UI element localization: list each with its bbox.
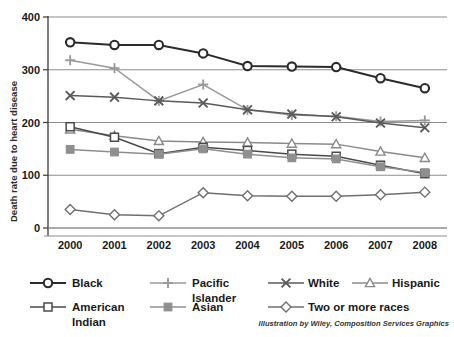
x-tick-label: 2004 [235, 239, 260, 251]
x-tick-label: 2001 [102, 239, 126, 251]
x-tick-label: 2000 [58, 239, 82, 251]
legend-item-white[interactable]: White [268, 277, 339, 289]
legend-label: Indian [72, 316, 106, 328]
series-black [66, 38, 429, 92]
x-tick-label: 2006 [324, 239, 348, 251]
legend-label: Asian [192, 301, 223, 313]
legend-item-hispanic[interactable]: Hispanic [352, 277, 441, 289]
x-tick-label: 2003 [191, 239, 215, 251]
series-two-or-more-races [65, 187, 430, 221]
x-tick-label: 2005 [280, 239, 304, 251]
credit-line: Illustration by Wiley, Composition Servi… [259, 319, 449, 328]
legend-label: Pacific [192, 277, 230, 289]
x-tick-label: 2008 [413, 239, 437, 251]
y-tick-label: 200 [22, 117, 40, 129]
legend-item-american-indian[interactable]: AmericanIndian [30, 301, 124, 328]
x-tick-label: 2007 [368, 239, 392, 251]
x-axis-ticks: 200020012002200320042005200620072008 [58, 239, 437, 251]
y-tick-label: 300 [22, 64, 40, 76]
legend-item-asian[interactable]: Asian [150, 301, 223, 313]
y-tick-label: 0 [34, 222, 40, 234]
x-tick-label: 2002 [147, 239, 171, 251]
legend-label: Black [72, 277, 103, 289]
y-axis-ticks: 0100200300400 [22, 11, 48, 234]
data-series-group [65, 38, 430, 221]
legend-label: Two or more races [308, 301, 409, 313]
legend-label: Hispanic [392, 277, 441, 289]
axis-lines [44, 16, 447, 236]
y-tick-label: 400 [22, 11, 40, 23]
y-tick-label: 100 [22, 169, 40, 181]
legend-label: White [308, 277, 339, 289]
chart-container: Death rate due to heart disease 01002003… [0, 0, 454, 337]
heart-disease-death-rate-line-chart: Death rate due to heart disease 01002003… [0, 0, 454, 337]
y-axis-title: Death rate due to heart disease [8, 81, 19, 222]
legend-item-two-or-more-races[interactable]: Two or more races [268, 301, 409, 313]
legend-item-black[interactable]: Black [30, 277, 103, 289]
legend-item-pacific-islander[interactable]: PacificIslander [150, 277, 237, 304]
legend-label: American [72, 301, 124, 313]
